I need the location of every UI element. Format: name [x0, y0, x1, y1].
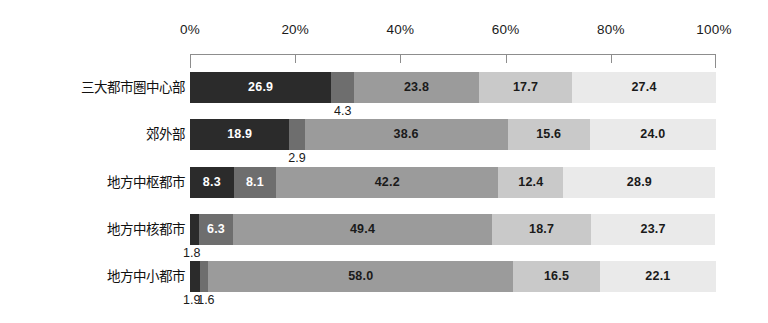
bar-segment: 17.7 [479, 72, 572, 103]
bar-segment-value: 8.3 [203, 176, 221, 189]
x-axis-tick-label-100: 100% [696, 22, 731, 37]
bar-segment: 12.4 [498, 167, 563, 198]
bar-row: 8.38.142.212.428.9 [190, 167, 716, 198]
bar-segment-value: 24.0 [640, 128, 665, 141]
bar-segment: 26.9 [190, 72, 331, 103]
bar-segment-value: 38.6 [394, 128, 419, 141]
bar-segment-value: 18.9 [227, 128, 252, 141]
bar-segment: 16.5 [513, 261, 600, 292]
bar-track: 18.938.615.624.0 [190, 119, 716, 150]
x-axis-tick-100 [715, 54, 716, 68]
bar-segment-callout-value: 1.8 [183, 247, 200, 260]
category-label-1: 郊外部 [5, 119, 185, 150]
x-axis-tick-0 [190, 54, 191, 68]
category-label-4: 地方中小都市 [5, 261, 185, 292]
bar-segment-value: 28.9 [627, 176, 652, 189]
bar-segment-callout-value: 1.6 [197, 294, 214, 307]
bar-segment-value: 58.0 [348, 270, 373, 283]
bar-segment-value: 23.7 [641, 223, 666, 236]
bar-track: 8.38.142.212.428.9 [190, 167, 716, 198]
bar-segment-value: 8.1 [246, 176, 264, 189]
bar-segment [190, 214, 199, 245]
bar-segment [190, 261, 200, 292]
category-label-2: 地方中枢都市 [5, 167, 185, 198]
bar-row: 18.938.615.624.0 [190, 119, 716, 150]
bar-segment-callout-value: 4.3 [334, 105, 351, 118]
bar-segment-value: 16.5 [544, 270, 569, 283]
bar-segment: 28.9 [563, 167, 715, 198]
bar-track: 58.016.522.1 [190, 261, 716, 292]
bar-segment [289, 119, 304, 150]
bar-segment-value: 18.7 [529, 223, 554, 236]
bar-segment-value: 15.6 [536, 128, 561, 141]
bar-segment: 42.2 [276, 167, 498, 198]
x-axis-tick-80 [611, 54, 612, 63]
bar-segment-value: 49.4 [350, 223, 375, 236]
bar-segment [331, 72, 354, 103]
bar-segment: 8.1 [234, 167, 277, 198]
x-axis-tick-60 [506, 54, 507, 63]
x-axis-tick-label-80: 80% [597, 22, 625, 37]
bar-segment: 18.9 [190, 119, 289, 150]
bar-segment-value: 22.1 [645, 270, 670, 283]
category-label-0: 三大都市圏中心部 [5, 72, 185, 103]
bar-segment-value: 23.8 [404, 81, 429, 94]
x-axis-line [190, 54, 716, 55]
bar-segment: 8.3 [190, 167, 234, 198]
category-label-3: 地方中核都市 [5, 214, 185, 245]
x-axis-tick-label-60: 60% [492, 22, 520, 37]
bar-segment: 15.6 [508, 119, 590, 150]
bar-segment: 23.7 [591, 214, 716, 245]
stacked-bar-chart: 0% 20% 40% 60% 80% 100% 三大都市圏中心部 郊外部 地方中… [0, 0, 768, 323]
bar-segment-value: 6.3 [207, 223, 225, 236]
x-axis-tick-labels: 0% 20% 40% 60% 80% 100% [0, 22, 768, 42]
bar-segment: 18.7 [492, 214, 590, 245]
bar-row: 6.349.418.723.7 [190, 214, 716, 245]
bar-track: 6.349.418.723.7 [190, 214, 716, 245]
x-axis-tick-20 [295, 54, 296, 63]
bar-segment: 38.6 [305, 119, 508, 150]
bar-track: 26.923.817.727.4 [190, 72, 716, 103]
bar-segment: 27.4 [572, 72, 716, 103]
bar-segment-value: 17.7 [513, 81, 538, 94]
plot-area: 26.923.817.727.4 18.938.615.624.0 8.38.1… [190, 68, 716, 298]
bar-segment: 24.0 [590, 119, 716, 150]
bar-segment-value: 26.9 [248, 81, 273, 94]
bar-segment: 49.4 [233, 214, 493, 245]
bar-segment: 23.8 [354, 72, 479, 103]
bar-segment: 22.1 [600, 261, 716, 292]
x-axis-tick-label-40: 40% [387, 22, 415, 37]
bar-segment-callout-value: 2.9 [288, 152, 305, 165]
x-axis-tick-label-20: 20% [281, 22, 309, 37]
bar-segment-value: 42.2 [375, 176, 400, 189]
bar-segment-value: 12.4 [518, 176, 543, 189]
x-axis-tick-40 [400, 54, 401, 63]
bar-row: 58.016.522.1 [190, 261, 716, 292]
category-axis-labels: 三大都市圏中心部 郊外部 地方中枢都市 地方中核都市 地方中小都市 [0, 68, 185, 298]
bar-segment-value: 27.4 [631, 81, 656, 94]
x-axis-tick-label-0: 0% [180, 22, 200, 37]
bar-row: 26.923.817.727.4 [190, 72, 716, 103]
bar-segment: 6.3 [199, 214, 232, 245]
bar-segment [200, 261, 208, 292]
bar-segment: 58.0 [208, 261, 513, 292]
